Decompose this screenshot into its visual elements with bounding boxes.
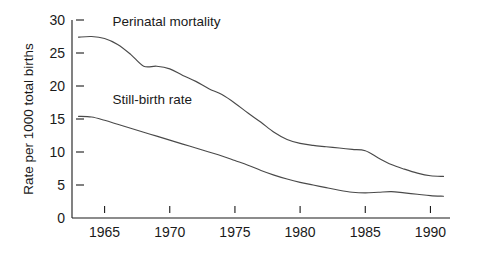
y-tick-label: 20 bbox=[49, 78, 65, 94]
x-axis-tick-labels: 196519701975198019851990 bbox=[89, 224, 446, 240]
chart-container: Rate per 1000 total births 051015202530 … bbox=[0, 0, 477, 265]
y-tick-label: 10 bbox=[49, 144, 65, 160]
x-tick-label: 1990 bbox=[415, 224, 446, 240]
data-series-group bbox=[79, 36, 444, 196]
data-curve-still-birth-rate bbox=[79, 116, 444, 196]
y-tick-label: 30 bbox=[49, 12, 65, 28]
series-label-perinatal-mortality: Perinatal mortality bbox=[112, 14, 220, 29]
y-axis-tick-labels: 051015202530 bbox=[49, 12, 65, 226]
y-axis-title-label: Rate per 1000 total births bbox=[21, 43, 36, 195]
y-tick-label: 25 bbox=[49, 45, 65, 61]
series-inline-labels: Perinatal mortalityStill-birth rate bbox=[112, 14, 220, 108]
y-tick-label: 15 bbox=[49, 111, 65, 127]
x-tick-label: 1975 bbox=[219, 224, 250, 240]
x-tick-label: 1985 bbox=[350, 224, 381, 240]
series-label-still-birth-rate: Still-birth rate bbox=[112, 92, 192, 107]
perinatal-mortality-line-chart: Rate per 1000 total births 051015202530 … bbox=[0, 0, 477, 265]
y-axis-title: Rate per 1000 total births bbox=[21, 43, 36, 195]
y-tick-label: 0 bbox=[57, 210, 65, 226]
x-tick-label: 1970 bbox=[154, 224, 185, 240]
x-tick-label: 1980 bbox=[285, 224, 316, 240]
x-tick-label: 1965 bbox=[89, 224, 120, 240]
y-tick-label: 5 bbox=[57, 177, 65, 193]
